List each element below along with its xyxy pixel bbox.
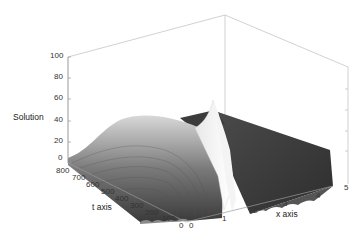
z-tick-40: 40 — [54, 116, 63, 124]
t-tick-700: 700 — [72, 174, 85, 182]
z-tick-80: 80 — [54, 73, 63, 81]
x-tick-0: 0 — [189, 222, 193, 230]
t-tick-500: 500 — [101, 188, 114, 196]
z-tick-0: 0 — [58, 154, 62, 162]
x-tick-3: 3 — [283, 200, 287, 208]
x-axis-label: x axis — [276, 210, 298, 219]
z-axis-label: Solution — [13, 113, 44, 122]
x-tick-4: 4 — [316, 192, 320, 200]
z-tick-20: 20 — [54, 137, 63, 145]
t-tick-100: 100 — [162, 215, 175, 223]
x-tick-5: 5 — [344, 184, 348, 192]
t-axis-label: t axis — [92, 203, 112, 212]
t-tick-800: 800 — [56, 167, 69, 175]
x-tick-2: 2 — [253, 207, 257, 215]
t-tick-600: 600 — [86, 181, 99, 189]
t-tick-400: 400 — [115, 195, 128, 203]
t-tick-0: 0 — [179, 222, 183, 230]
z-tick-60: 60 — [54, 94, 63, 102]
t-tick-200: 200 — [145, 209, 158, 217]
t-tick-300: 300 — [130, 202, 143, 210]
x-tick-1: 1 — [222, 215, 226, 223]
z-tick-100: 100 — [50, 52, 63, 60]
